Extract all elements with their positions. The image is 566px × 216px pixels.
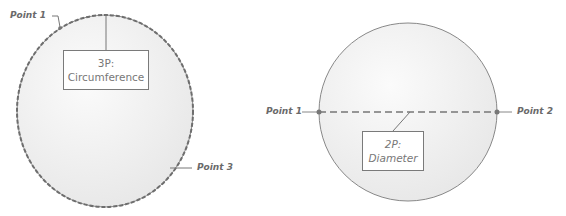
point1-leader-line <box>52 16 60 27</box>
circumference-label-box: 3P: Circumference <box>63 50 149 90</box>
point1-marker <box>58 26 62 30</box>
diameter-label-line2: Diameter <box>363 151 423 165</box>
circumference-label-line2: Circumference <box>64 70 148 84</box>
two-point-point1-label: Point 1 <box>266 106 302 116</box>
two-point-point2-label: Point 2 <box>517 106 553 116</box>
circumference-label-line1: 3P: <box>64 56 148 70</box>
diameter-point2-marker <box>495 110 500 115</box>
diameter-label-line1: 2P: <box>363 137 423 151</box>
diameter-point1-marker <box>317 110 322 115</box>
three-point-point3-label: Point 3 <box>197 162 233 172</box>
two-point-circle-group <box>302 23 512 201</box>
three-point-point1-label: Point 1 <box>10 10 46 20</box>
three-point-circle-group <box>17 15 193 207</box>
diameter-label-box: 2P: Diameter <box>362 131 424 171</box>
